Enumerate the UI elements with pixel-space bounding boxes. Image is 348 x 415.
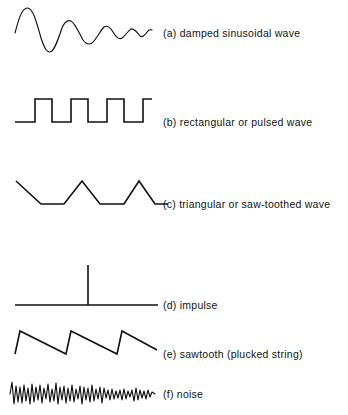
waveform-figure: (a) damped sinusoidal wave (b) rectangul…	[0, 0, 348, 415]
waveform-label-noise: (f) noise	[163, 389, 203, 400]
noise-path	[10, 382, 155, 404]
waveform-noise-icon	[0, 0, 348, 415]
waveform-row-noise: (f) noise	[0, 0, 348, 415]
